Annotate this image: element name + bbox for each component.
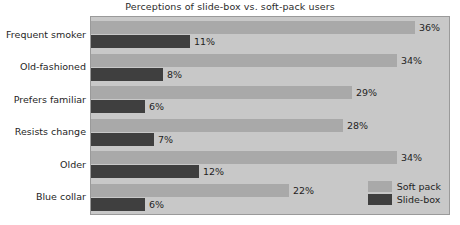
bar-soft-3[interactable] [91,86,352,99]
category-label-2: Old-fashioned [0,61,86,72]
category-label-6: Blue collar [0,191,86,202]
category-label-3: Prefers familiar [0,93,86,104]
category-axis: Frequent smokerOld-fashionedPrefers fami… [0,16,88,215]
bar-value-slide-3: 6% [149,100,164,113]
category-label-1: Frequent smoker [0,28,86,39]
bar-group: 34%8% [91,54,449,81]
legend-swatch-icon-1 [368,181,392,192]
bar-value-soft-5: 34% [401,151,422,164]
bar-value-slide-5: 12% [203,165,224,178]
legend-swatch-icon-2 [368,194,392,205]
bar-value-soft-6: 22% [293,184,314,197]
bar-soft-1[interactable] [91,21,415,34]
bar-group: 36%11% [91,21,449,48]
bar-chart: Perceptions of slide-box vs. soft-pack u… [0,0,460,225]
bar-value-slide-6: 6% [149,198,164,211]
bar-slide-3[interactable] [91,100,145,113]
bar-value-soft-4: 28% [347,119,368,132]
legend-item-1[interactable]: Soft pack [368,180,441,192]
category-label-5: Older [0,158,86,169]
chart-title: Perceptions of slide-box vs. soft-pack u… [0,1,460,12]
bar-value-slide-2: 8% [167,68,182,81]
bar-soft-6[interactable] [91,184,289,197]
bar-value-slide-1: 11% [194,35,215,48]
bar-value-slide-4: 7% [158,133,173,146]
bar-group: 28%7% [91,119,449,146]
bar-slide-5[interactable] [91,165,199,178]
plot-area: 36%11%34%8%29%6%28%7%34%12%22%6% Soft pa… [90,16,450,215]
bar-slide-1[interactable] [91,35,190,48]
bar-value-soft-2: 34% [401,54,422,67]
bar-soft-2[interactable] [91,54,397,67]
legend-label-2: Slide-box [397,194,441,205]
bar-soft-5[interactable] [91,151,397,164]
bar-slide-4[interactable] [91,133,154,146]
category-label-4: Resists change [0,126,86,137]
bar-slide-2[interactable] [91,68,163,81]
bar-slide-6[interactable] [91,198,145,211]
bar-group: 34%12% [91,151,449,178]
legend-item-2[interactable]: Slide-box [368,193,441,205]
bar-value-soft-1: 36% [419,21,440,34]
bar-value-soft-3: 29% [356,86,377,99]
chart-legend: Soft packSlide-box [368,180,441,205]
bar-group: 29%6% [91,86,449,113]
legend-label-1: Soft pack [397,181,441,192]
bar-soft-4[interactable] [91,119,343,132]
